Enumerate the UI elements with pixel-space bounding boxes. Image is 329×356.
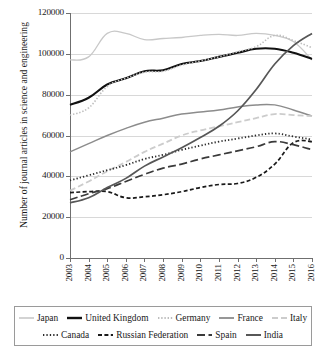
y-axis-tick-label: 80000 (6, 90, 64, 99)
x-axis-tick-label: 2006 (121, 264, 130, 282)
chart-plot-region: Number of journal articles in science an… (0, 0, 329, 290)
series-line-germany (70, 35, 312, 115)
legend-item-russian-federation[interactable]: Russian Federation (95, 330, 191, 340)
legend-swatch-icon (197, 331, 212, 339)
x-axis-tick-label: 2005 (102, 264, 111, 282)
x-axis-tick-mark (312, 258, 313, 262)
x-axis-tick-label: 2008 (158, 264, 167, 282)
x-axis-tick-mark (275, 258, 276, 262)
legend-item-united-kingdom[interactable]: United Kingdom (64, 313, 151, 323)
y-axis-tick-label: 20000 (6, 212, 64, 221)
legend-swatch-icon (158, 314, 173, 322)
y-axis-ticks: 120000100000800006000040000200000 (0, 0, 64, 290)
legend-item-germany[interactable]: Germany (155, 313, 214, 323)
x-axis-tick-label: 2012 (233, 264, 242, 282)
x-axis-tick-mark (219, 258, 220, 262)
legend-label: United Kingdom (85, 313, 148, 323)
x-axis-tick-mark (200, 258, 201, 262)
x-axis-tick-mark (144, 258, 145, 262)
legend-row-top: JapanUnited KingdomGermanyFranceItaly (15, 309, 311, 326)
y-axis-tick-label: 120000 (6, 8, 64, 17)
legend-label: India (264, 330, 283, 340)
x-axis-tick-label: 2007 (139, 264, 148, 282)
legend-item-canada[interactable]: Canada (40, 330, 92, 340)
legend-swatch-icon (67, 314, 82, 322)
legend-item-india[interactable]: India (243, 330, 286, 340)
legend-swatch-icon (19, 314, 34, 322)
x-axis-tick-mark (126, 258, 127, 262)
x-axis-tick-label: 2004 (84, 264, 93, 282)
legend-item-japan[interactable]: Japan (16, 313, 61, 323)
data-lines-container (70, 13, 312, 258)
x-axis-tick-label: 2014 (270, 264, 279, 282)
x-axis-tick-mark (256, 258, 257, 262)
legend-label: Italy (290, 313, 307, 323)
x-axis-tick-label: 2015 (288, 264, 297, 282)
legend-swatch-icon (272, 314, 287, 322)
y-axis-tick-label: 100000 (6, 49, 64, 58)
x-axis-tick-mark (163, 258, 164, 262)
legend-label: Russian Federation (116, 330, 188, 340)
x-axis-tick-label: 2013 (251, 264, 260, 282)
legend-item-italy[interactable]: Italy (269, 313, 310, 323)
y-axis-tick-label: 0 (6, 253, 64, 262)
x-axis-tick-mark (238, 258, 239, 262)
series-line-japan (70, 31, 312, 60)
legend-label: France (237, 313, 263, 323)
legend-row-bottom: CanadaRussian FederationSpainIndia (15, 326, 311, 343)
chart-figure: Number of journal articles in science an… (0, 0, 329, 356)
legend-swatch-icon (98, 331, 113, 339)
series-line-india (70, 33, 312, 202)
legend-label: Canada (61, 330, 89, 340)
legend-label: Spain (215, 330, 236, 340)
series-line-canada (70, 133, 312, 180)
x-axis-tick-mark (70, 258, 71, 262)
x-axis-tick-label: 2003 (65, 264, 74, 282)
legend-label: Japan (37, 313, 58, 323)
series-svg (70, 13, 312, 258)
y-axis-tick-label: 40000 (6, 171, 64, 180)
legend-swatch-icon (246, 331, 261, 339)
legend-item-spain[interactable]: Spain (194, 330, 239, 340)
x-axis-tick-mark (107, 258, 108, 262)
legend-swatch-icon (43, 331, 58, 339)
x-axis-tick-label: 2009 (177, 264, 186, 282)
x-axis-tick-mark (293, 258, 294, 262)
y-axis-tick-label: 60000 (6, 131, 64, 140)
x-axis-tick-mark (182, 258, 183, 262)
x-axis-tick-label: 2016 (307, 264, 316, 282)
legend-swatch-icon (219, 314, 234, 322)
x-axis-tick-label: 2011 (214, 264, 223, 281)
legend-item-france[interactable]: France (216, 313, 266, 323)
legend-label: Germany (176, 313, 211, 323)
x-axis-tick-label: 2010 (195, 264, 204, 282)
series-line-france (70, 104, 312, 152)
series-line-italy (70, 114, 312, 191)
x-axis-tick-mark (89, 258, 90, 262)
chart-legend: JapanUnited KingdomGermanyFranceItaly Ca… (14, 306, 312, 346)
series-line-united-kingdom (70, 48, 312, 105)
